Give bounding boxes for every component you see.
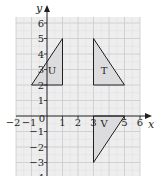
x-tick-label: 5 bbox=[121, 117, 127, 128]
y-tick-label: 3 bbox=[38, 64, 44, 75]
x-tick-label: 3 bbox=[90, 117, 96, 128]
x-tick-label: 6 bbox=[137, 117, 143, 128]
y-tick-label: 1 bbox=[38, 95, 44, 106]
shape-label-u: U bbox=[48, 65, 56, 76]
x-tick-label: 0 bbox=[39, 113, 45, 124]
x-axis-label: x bbox=[148, 118, 155, 131]
x-tick-label: −1 bbox=[22, 117, 37, 128]
x-tick-label: 2 bbox=[75, 117, 81, 128]
x-tick-label: −2 bbox=[6, 117, 21, 128]
y-tick-label: 2 bbox=[38, 80, 44, 91]
coordinate-grid-figure: y x 6 5 4 3 2 1 −1 −2 −3 −4 −2 −1 0 1 2 … bbox=[0, 0, 157, 176]
y-tick-label: −4 bbox=[29, 172, 44, 176]
y-axis-label: y bbox=[35, 2, 43, 15]
y-axis-arrow-icon bbox=[44, 5, 50, 12]
y-tick-label: 5 bbox=[38, 33, 44, 44]
y-tick-label: −2 bbox=[29, 142, 44, 153]
y-tick-label: 6 bbox=[38, 18, 44, 29]
shape-label-v: V bbox=[99, 118, 108, 129]
shape-label-t: T bbox=[101, 65, 108, 76]
x-tick-label: 1 bbox=[59, 117, 65, 128]
y-tick-label: −3 bbox=[29, 157, 44, 168]
y-tick-label: 4 bbox=[38, 49, 44, 60]
